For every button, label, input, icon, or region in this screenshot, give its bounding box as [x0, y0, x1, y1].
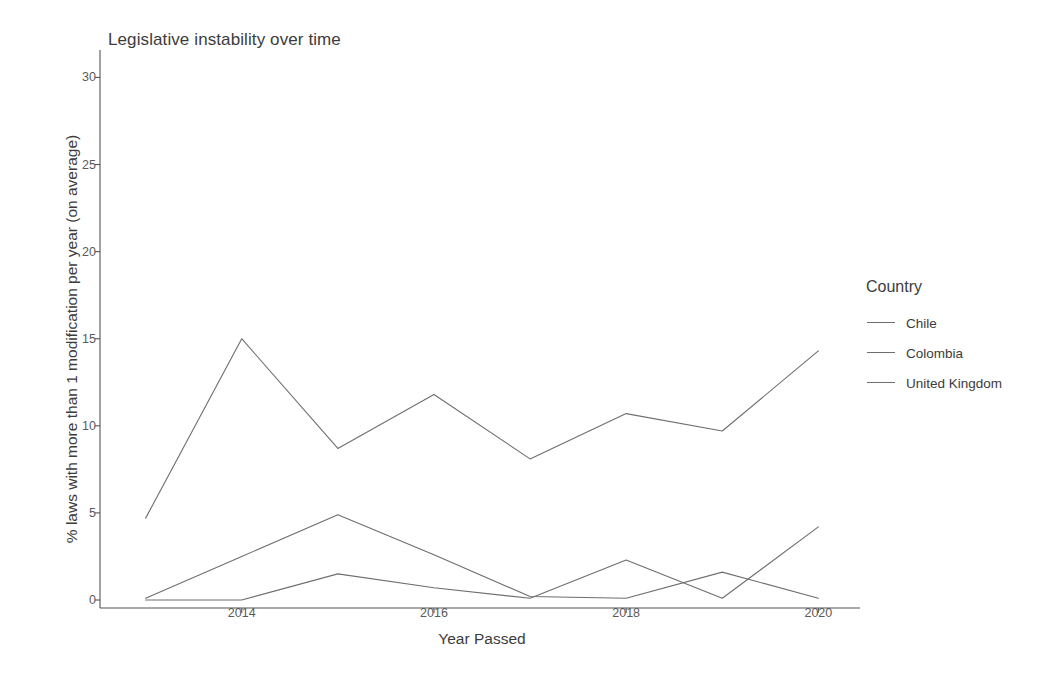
legend-line-icon — [866, 376, 896, 390]
legend-item-united-kingdom[interactable]: United Kingdom — [866, 370, 1046, 396]
legend-item-chile[interactable]: Chile — [866, 310, 1046, 336]
series-line-colombia — [146, 515, 819, 599]
legend-item-label: United Kingdom — [906, 376, 1002, 391]
legend: Country Chile Colombia United Kingdom — [866, 278, 1046, 400]
legend-line-icon — [866, 316, 896, 330]
chart-figure: Legislative instability over time % laws… — [0, 0, 1061, 686]
legend-title: Country — [866, 278, 1046, 296]
legend-item-label: Chile — [906, 316, 937, 331]
legend-item-colombia[interactable]: Colombia — [866, 340, 1046, 366]
legend-item-label: Colombia — [906, 346, 963, 361]
series-line-united-kingdom — [146, 527, 819, 600]
legend-line-icon — [866, 346, 896, 360]
series-line-chile — [146, 339, 819, 518]
